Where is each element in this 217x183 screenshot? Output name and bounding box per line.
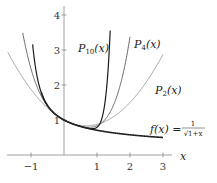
svg-text:√1+x: √1+x (184, 130, 203, 138)
svg-text:f(x) =: f(x) = (149, 123, 182, 136)
label-p2: P2(x) (154, 84, 182, 98)
curve-p2-x- (8, 52, 163, 126)
svg-text:1: 1 (191, 120, 195, 128)
label-f: f(x) = 1 √1+x (149, 120, 205, 138)
label-p4: P4(x) (133, 38, 161, 52)
x-ticks: −1123 (24, 153, 167, 173)
curve-p4-x- (23, 33, 130, 127)
x-tick-label: 2 (127, 161, 133, 172)
x-tick-label: 3 (160, 161, 166, 172)
label-p10: P10(x) (77, 42, 109, 56)
x-tick-label: 1 (94, 161, 100, 172)
taylor-polynomial-chart: −1123 1234 x P10(x) P4(x) P2(x) f(x) = 1… (0, 0, 217, 183)
curve-labels: P10(x) P4(x) P2(x) f(x) = 1 √1+x (77, 38, 205, 138)
x-axis-label: x (180, 150, 187, 163)
y-tick-label: 2 (54, 80, 60, 91)
y-tick-label: 4 (54, 10, 60, 21)
y-ticks: 1234 (54, 10, 67, 126)
y-tick-label: 3 (54, 45, 60, 56)
x-tick-label: −1 (24, 161, 39, 172)
